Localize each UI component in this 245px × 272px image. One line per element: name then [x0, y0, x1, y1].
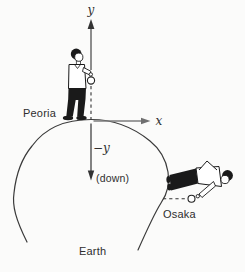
peoria-label: Peoria	[23, 107, 56, 119]
osaka-ball-icon	[188, 195, 195, 202]
peoria-person-shoe	[63, 116, 73, 120]
osaka-person-pants	[170, 169, 199, 191]
osaka-person-icon	[166, 161, 233, 198]
x-axis-arrowhead-icon	[141, 118, 151, 124]
peoria-ball-icon	[87, 77, 94, 84]
y-axis	[88, 19, 95, 119]
down-arrowhead-icon	[88, 171, 94, 181]
diagram-canvas	[0, 0, 245, 272]
physics-diagram: y x −y (down) Peoria Osaka Earth	[0, 0, 245, 272]
x-axis-label: x	[152, 114, 166, 128]
osaka-person-hand	[196, 195, 199, 198]
y-axis-arrowhead-icon	[88, 19, 95, 29]
neg-y-axis-label: −y	[93, 141, 110, 155]
peoria-person-face	[75, 53, 83, 61]
earth-label: Earth	[79, 245, 106, 257]
x-axis	[94, 118, 151, 124]
peoria-person-pants	[66, 88, 86, 117]
down-label: (down)	[96, 173, 129, 185]
y-axis-label: y	[84, 3, 98, 17]
osaka-person-face	[221, 175, 229, 183]
peoria-person-shoe	[76, 116, 86, 120]
osaka-person-bent-arm	[199, 161, 217, 170]
peoria-person-hand	[89, 73, 92, 76]
peoria-person-icon	[63, 49, 93, 121]
osaka-label: Osaka	[163, 208, 196, 220]
